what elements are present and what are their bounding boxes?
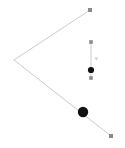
point-on-segment-marker [88, 67, 94, 73]
segment-bottom-endpoint-marker [89, 76, 93, 80]
segment-top-endpoint-marker [89, 40, 93, 44]
endpoint-bottom-right-marker [109, 134, 113, 138]
segment-label: v [95, 56, 98, 61]
figure-background [0, 0, 125, 148]
geometry-figure [0, 0, 125, 148]
point-on-lower-arm-marker [78, 107, 88, 117]
figure-canvas: v [0, 0, 125, 148]
endpoint-top-right-marker [88, 8, 92, 12]
